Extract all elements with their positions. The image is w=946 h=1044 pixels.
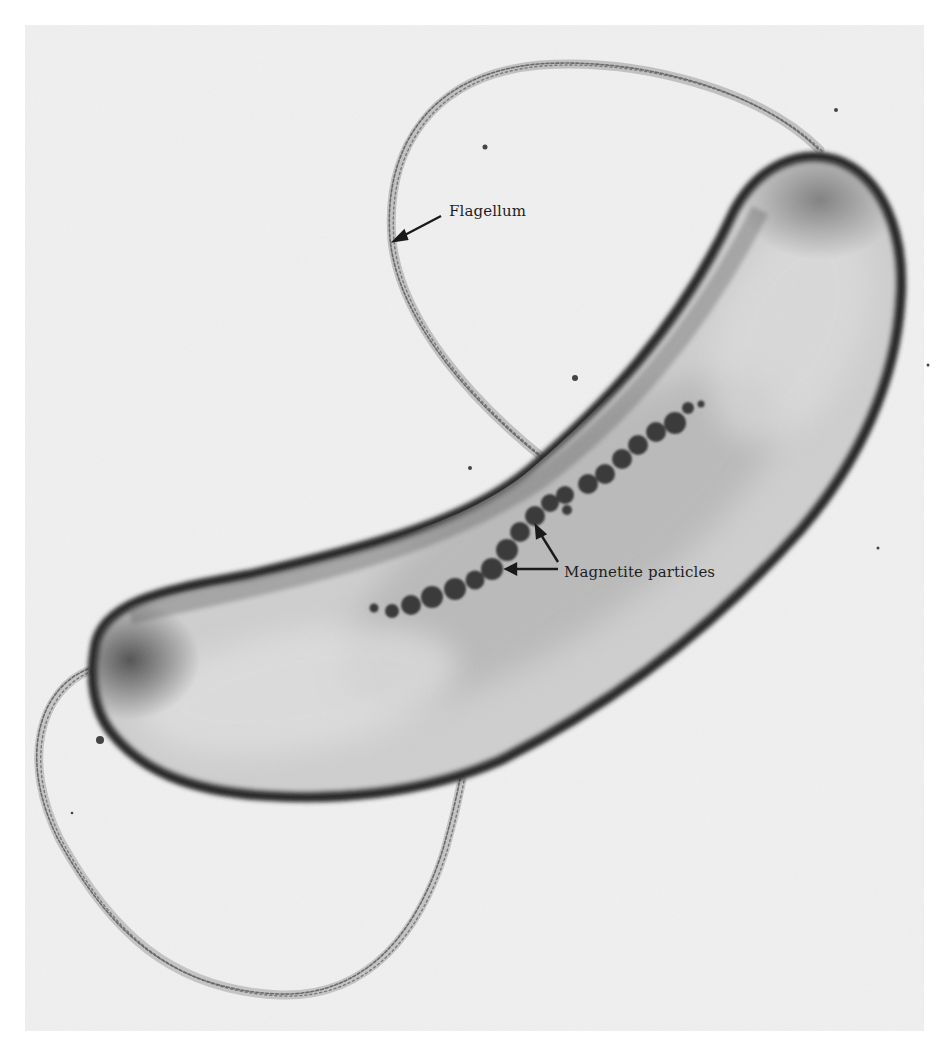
micrograph	[0, 0, 946, 1044]
magnetite-particles-label: Magnetite particles	[564, 563, 715, 581]
flagellum-label: Flagellum	[449, 202, 526, 220]
